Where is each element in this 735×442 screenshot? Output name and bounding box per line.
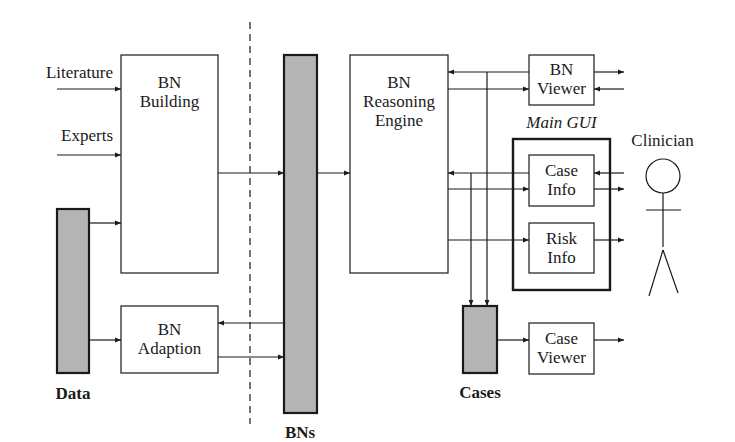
- clinician-label: Clinician: [615, 131, 710, 150]
- literature-label: Literature: [10, 63, 113, 82]
- cases-store: [463, 306, 497, 373]
- clinician-stick-figure-icon: [646, 159, 681, 296]
- bns-store: [284, 55, 317, 413]
- risk-info-label: Risk Info: [529, 229, 594, 267]
- bn-building-label: BN Building: [121, 73, 218, 111]
- case-viewer-label: Case Viewer: [529, 329, 594, 367]
- bn-reasoning-engine-label: BN Reasoning Engine: [350, 73, 448, 130]
- case-info-label: Case Info: [529, 161, 594, 199]
- bn-adaption-label: BN Adaption: [121, 320, 218, 358]
- data-store-label: Data: [43, 384, 103, 403]
- main-gui-label: Main GUI: [513, 113, 610, 132]
- cases-store-label: Cases: [450, 383, 510, 402]
- data-store: [57, 209, 89, 373]
- bn-viewer-label: BN Viewer: [529, 60, 594, 98]
- bns-store-label: BNs: [270, 423, 330, 442]
- experts-label: Experts: [10, 126, 113, 145]
